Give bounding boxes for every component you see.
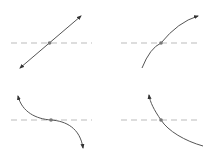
- diagram-canvas: [0, 0, 212, 163]
- s-curve: [18, 96, 83, 148]
- panel-bottom-right: [121, 95, 203, 146]
- panel-top-right: [121, 16, 201, 68]
- crossing-point: [48, 41, 52, 45]
- panel-bottom-left: [11, 96, 92, 148]
- crossing-point: [159, 118, 163, 122]
- concave-increasing-curve: [142, 16, 198, 68]
- crossing-point: [159, 41, 163, 45]
- panel-top-left: [11, 16, 92, 68]
- crossing-point: [49, 118, 53, 122]
